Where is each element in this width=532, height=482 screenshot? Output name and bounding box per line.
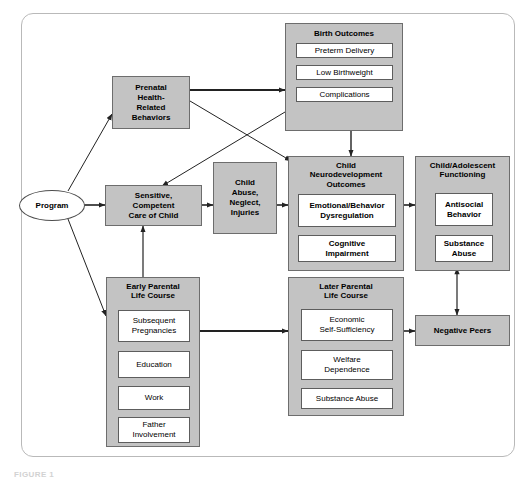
group-child-neurodevelopment-outcomes[interactable]: Child Neurodevelopment Outcomes Emotiona… [288,156,404,271]
node-prenatal-health-related-behaviors[interactable]: Prenatal Health- Related Behaviors [112,76,190,129]
item-low-birthweight[interactable]: Low Birthweight [296,65,393,80]
node-prenatal-line-3: Related [137,103,166,113]
item-preterm-delivery[interactable]: Preterm Delivery [296,43,393,58]
node-prenatal-line-1: Prenatal [135,83,167,93]
node-sensitive-competent-care[interactable]: Sensitive, Competent Care of Child [105,185,202,226]
group-later-parental-life-course[interactable]: Later Parental Life Course Economic Self… [288,277,404,416]
item-welfare-dependence[interactable]: Welfare Dependence [301,350,393,380]
group-child-adolescent-functioning[interactable]: Child/Adolescent Functioning Antisocial … [415,156,510,271]
item-cognitive-line-1: Cognitive [329,239,365,249]
item-low-birthweight-label: Low Birthweight [316,68,372,78]
item-cognitive-line-2: Impairment [325,249,368,259]
item-education[interactable]: Education [118,351,190,378]
item-preterm-delivery-label: Preterm Delivery [315,46,375,56]
node-prenatal-line-4: Behaviors [132,113,171,123]
item-substance-abuse-line-2: Abuse [452,249,476,259]
item-subsequent-line-1: Subsequent [133,316,176,326]
group-birth-outcomes[interactable]: Birth Outcomes Preterm Delivery Low Birt… [285,23,403,131]
node-abuse-line-2: Abuse, [232,188,259,198]
node-prenatal-line-2: Health- [137,93,164,103]
item-substance-abuse-adolescent[interactable]: Substance Abuse [435,235,493,262]
item-substance-abuse-line-1: Substance [444,239,484,249]
item-welfare-line-1: Welfare [333,355,360,365]
item-complications-label: Complications [319,90,369,100]
item-emotional-behavior-dysregulation[interactable]: Emotional/Behavior Dysregulation [298,194,396,227]
item-father-line-2: Involvement [132,430,175,440]
item-antisocial-line-1: Antisocial [445,200,483,210]
item-subsequent-pregnancies[interactable]: Subsequent Pregnancies [118,310,190,342]
node-sensitive-line-1: Sensitive, [135,191,172,201]
node-program[interactable]: Program [19,190,85,221]
figure-title: LOGIC MODEL FOR HOME VISITING INTERVENTI… [0,0,532,1]
item-economic-line-1: Economic [329,315,364,325]
item-antisocial-behavior[interactable]: Antisocial Behavior [435,193,493,226]
item-work[interactable]: Work [118,386,190,410]
item-emotional-line-2: Dysregulation [320,211,373,221]
item-subsequent-line-2: Pregnancies [132,326,176,336]
group-early-parental-life-course[interactable]: Early Parental Life Course Subsequent Pr… [106,277,200,447]
item-substance-abuse-parental-label: Substance Abuse [316,394,378,404]
item-antisocial-line-2: Behavior [447,210,481,220]
item-economic-line-2: Self-Sufficiency [320,325,375,335]
node-negative-peers-label: Negative Peers [434,326,491,336]
node-abuse-line-4: Injuries [231,208,259,218]
figure-page: LOGIC MODEL FOR HOME VISITING INTERVENTI… [0,0,532,482]
item-education-label: Education [136,360,172,370]
item-work-label: Work [145,393,164,403]
item-economic-self-sufficiency[interactable]: Economic Self-Sufficiency [301,309,393,341]
node-abuse-line-3: Neglect, [229,198,260,208]
node-negative-peers[interactable]: Negative Peers [415,315,510,346]
item-substance-abuse-parental[interactable]: Substance Abuse [301,388,393,409]
item-complications[interactable]: Complications [296,87,393,102]
item-father-involvement[interactable]: Father Involvement [118,417,190,443]
node-sensitive-line-3: Care of Child [129,211,179,221]
node-program-label: Program [36,201,69,210]
item-welfare-line-2: Dependence [324,365,369,375]
item-cognitive-impairment[interactable]: Cognitive Impairment [298,235,396,262]
item-emotional-line-1: Emotional/Behavior [309,201,384,211]
figure-caption: FIGURE 1 [14,470,54,479]
item-father-line-1: Father [142,420,165,430]
node-abuse-line-1: Child [235,178,255,188]
node-sensitive-line-2: Competent [133,201,175,211]
node-child-abuse-neglect-injuries[interactable]: Child Abuse, Neglect, Injuries [213,162,277,234]
